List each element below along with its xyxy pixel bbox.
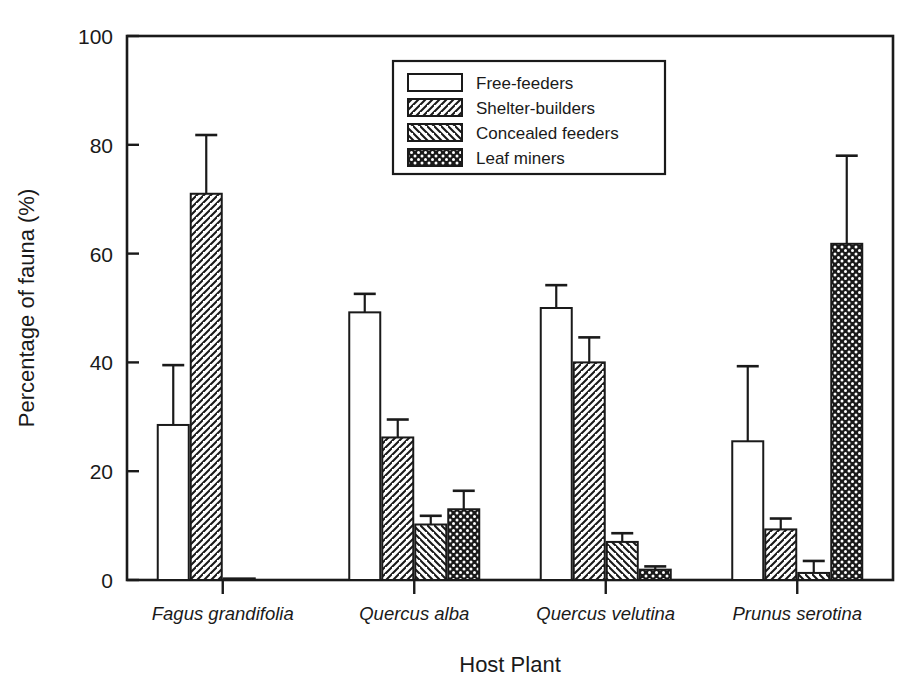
legend-swatch — [408, 124, 462, 141]
y-axis-title: Percentage of fauna (%) — [14, 189, 39, 427]
bar — [224, 578, 255, 580]
legend-swatch — [408, 149, 462, 166]
y-tick-label: 80 — [90, 134, 113, 157]
bar — [640, 570, 671, 580]
legend-label: Leaf miners — [476, 149, 565, 168]
y-tick-label: 60 — [90, 243, 113, 266]
bar — [158, 425, 189, 580]
bar — [382, 437, 413, 580]
legend-swatch — [408, 99, 462, 116]
x-axis: Fagus grandifoliaQuercus albaQuercus vel… — [152, 580, 862, 624]
y-tick-label: 100 — [78, 25, 113, 48]
y-tick-label: 20 — [90, 460, 113, 483]
legend-label: Concealed feeders — [476, 124, 619, 143]
bar — [831, 244, 862, 580]
bar — [732, 441, 763, 580]
bar — [191, 194, 222, 580]
bar — [607, 542, 638, 580]
bar — [765, 529, 796, 580]
bar — [349, 312, 380, 580]
x-tick-label: Quercus velutina — [536, 603, 675, 624]
bar-chart-canvas: 020406080100 Fagus grandifoliaQuercus al… — [0, 0, 917, 688]
bar — [798, 573, 829, 580]
x-axis-title: Host Plant — [459, 652, 561, 677]
legend-label: Shelter-builders — [476, 99, 595, 118]
x-tick-label: Quercus alba — [359, 603, 469, 624]
bar — [415, 525, 446, 580]
bar — [448, 509, 479, 580]
y-axis: 020406080100 — [78, 25, 139, 592]
chart-figure: 020406080100 Fagus grandifoliaQuercus al… — [0, 0, 917, 688]
x-tick-label: Fagus grandifolia — [152, 603, 294, 624]
y-tick-label: 0 — [101, 569, 113, 592]
bar — [574, 362, 605, 580]
legend: Free-feedersShelter-buildersConcealed fe… — [393, 61, 665, 174]
y-tick-label: 40 — [90, 351, 113, 374]
legend-swatch — [408, 74, 462, 91]
x-tick-label: Prunus serotina — [732, 603, 862, 624]
bar — [541, 308, 572, 580]
legend-label: Free-feeders — [476, 74, 573, 93]
bar-series-group — [158, 135, 863, 580]
